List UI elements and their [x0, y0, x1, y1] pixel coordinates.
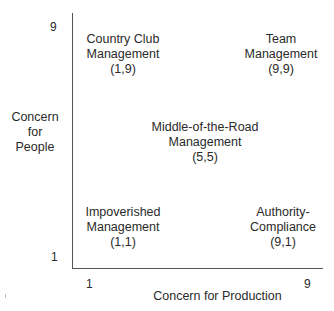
style-team: Team Management (9,9)	[236, 32, 326, 77]
style-name-line: Management	[140, 135, 270, 150]
style-name-line: Compliance	[238, 220, 328, 235]
style-name-line: Team	[236, 32, 326, 47]
style-name-line: Country Club	[78, 32, 168, 47]
style-country-club: Country Club Management (1,9)	[78, 32, 168, 77]
style-impoverished: Impoverished Management (1,1)	[78, 205, 168, 250]
y-axis-line	[72, 13, 73, 269]
style-coordinates: (9,1)	[238, 235, 328, 250]
style-coordinates: (1,1)	[78, 235, 168, 250]
style-coordinates: (5,5)	[140, 150, 270, 165]
style-name-line: Management	[236, 47, 326, 62]
y-axis-label-line: People	[8, 140, 62, 155]
stray-mark	[5, 294, 6, 298]
x-axis-label: Concern for Production	[130, 289, 305, 304]
y-axis-label: Concern for People	[8, 110, 62, 155]
style-name-line: Impoverished	[78, 205, 168, 220]
x-axis-line	[72, 268, 323, 269]
x-tick-9: 9	[304, 277, 311, 291]
y-axis-label-line: Concern	[8, 110, 62, 125]
y-axis-label-line: for	[8, 125, 62, 140]
style-coordinates: (9,9)	[236, 62, 326, 77]
style-name-line: Management	[78, 47, 168, 62]
style-name-line: Middle-of-the-Road	[140, 120, 270, 135]
style-authority-compliance: Authority- Compliance (9,1)	[238, 205, 328, 250]
x-tick-1: 1	[86, 277, 93, 291]
style-coordinates: (1,9)	[78, 62, 168, 77]
style-name-line: Management	[78, 220, 168, 235]
style-middle-of-the-road: Middle-of-the-Road Management (5,5)	[140, 120, 270, 165]
y-tick-1: 1	[51, 250, 58, 264]
y-tick-9: 9	[50, 20, 57, 34]
style-name-line: Authority-	[238, 205, 328, 220]
